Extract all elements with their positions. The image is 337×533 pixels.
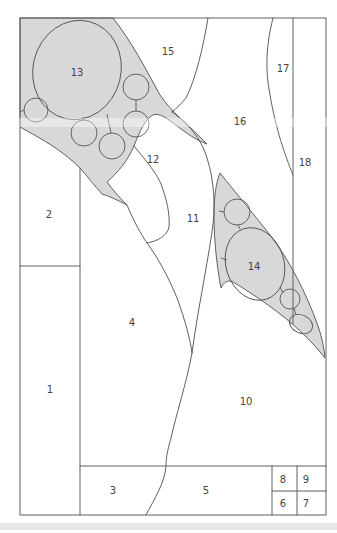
region-14-label: 14 xyxy=(248,261,261,272)
pattern-page: 123456789101112131415161718 xyxy=(0,0,337,533)
region-3-label: 3 xyxy=(110,485,116,496)
region-18-label: 18 xyxy=(299,157,312,168)
page-edge-shadow xyxy=(0,523,337,530)
region-17-label: 17 xyxy=(277,63,290,74)
region-15-label: 15 xyxy=(162,46,175,57)
region-11-label: 11 xyxy=(187,213,200,224)
region-4-label: 4 xyxy=(129,317,135,328)
curve-15-16 xyxy=(172,18,208,112)
region-12-label: 12 xyxy=(147,154,160,165)
curve-17 xyxy=(267,18,293,175)
leaf-left-edge xyxy=(127,205,192,353)
region-7-label: 7 xyxy=(303,498,309,509)
region-16-label: 16 xyxy=(234,116,247,127)
leaf-right-edge xyxy=(172,112,214,353)
region-2-label: 2 xyxy=(46,209,52,220)
region-10-label: 10 xyxy=(240,396,253,407)
region-8-label: 8 xyxy=(280,474,286,485)
stained-glass-pattern-drawing: 123456789101112131415161718 xyxy=(0,0,337,533)
scan-streak xyxy=(0,118,337,127)
region-1-label: 1 xyxy=(47,384,53,395)
region-5-label: 5 xyxy=(203,485,209,496)
curve-4-10-3-5 xyxy=(146,353,192,515)
region-9-label: 9 xyxy=(303,474,309,485)
region-6-label: 6 xyxy=(280,498,286,509)
region-13-label: 13 xyxy=(71,67,84,78)
